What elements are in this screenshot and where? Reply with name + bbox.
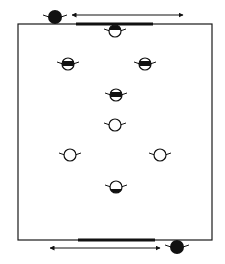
field-boundary — [18, 24, 212, 240]
bottom-outside-player-icon — [165, 240, 189, 254]
goal-lines-layer — [76, 24, 155, 240]
left-open-player-icon — [59, 149, 81, 161]
arrows-layer — [50, 15, 183, 248]
top-outside-player-icon — [43, 10, 67, 24]
right-open-player-icon — [149, 149, 171, 161]
right-striped-player-icon — [134, 58, 156, 70]
left-striped-player-icon — [57, 58, 79, 70]
drill-diagram — [0, 0, 225, 264]
center-striped-player-icon — [105, 89, 127, 101]
players-layer — [43, 10, 189, 254]
top-goalkeeper-icon — [104, 25, 126, 37]
center-open-player-icon — [104, 119, 126, 131]
field-layer — [18, 24, 212, 240]
bottom-goalkeeper-icon — [105, 181, 127, 193]
